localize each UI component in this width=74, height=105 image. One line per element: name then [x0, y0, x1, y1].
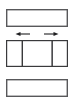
center-cell-border: [22, 41, 52, 67]
diagram-canvas: [0, 0, 74, 105]
bottom-plate: [7, 80, 68, 97]
schematic-svg: [0, 0, 74, 105]
expand-right-arrow-head: [54, 32, 59, 36]
expand-left-arrow-head: [16, 32, 21, 36]
expand-right-arrow: [44, 32, 59, 36]
top-plate: [7, 10, 68, 27]
center-plate: [7, 41, 68, 67]
center-cell: [22, 41, 52, 67]
expand-left-arrow: [16, 32, 31, 36]
right-cell: [52, 41, 67, 67]
left-cell: [7, 41, 23, 67]
